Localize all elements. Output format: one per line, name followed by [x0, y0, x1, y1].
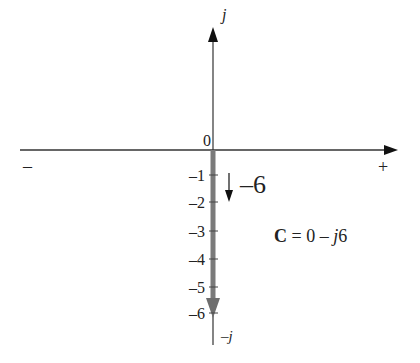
- complex-plane-diagram: –1 –2 –3 –4 –5 –6 0 j –j – + –6 C = 0 – …: [0, 0, 420, 363]
- tick-label: –5: [188, 279, 205, 296]
- tick-label: –2: [188, 194, 205, 211]
- tick-label: –4: [188, 251, 205, 268]
- imaginary-axis-arrow-icon: [208, 27, 218, 42]
- phasor-arrowhead-icon: [206, 298, 220, 318]
- tick-label: –3: [188, 223, 205, 240]
- tick-label: –1: [188, 167, 205, 184]
- tick-label: –6: [188, 305, 205, 322]
- positive-real-label: +: [378, 157, 388, 177]
- origin-label: 0: [203, 132, 211, 149]
- real-axis-arrow-icon: [384, 145, 398, 155]
- positive-imaginary-label: j: [220, 6, 227, 24]
- negative-real-label: –: [22, 156, 33, 176]
- diagram-svg: –1 –2 –3 –4 –5 –6 0 j –j – + –6 C = 0 – …: [0, 0, 420, 363]
- phasor-equation: C = 0 – j6: [274, 226, 347, 246]
- negative-imaginary-label: –j: [220, 328, 233, 344]
- magnitude-annotation: –6: [239, 170, 266, 199]
- direction-arrowhead-icon: [225, 190, 233, 202]
